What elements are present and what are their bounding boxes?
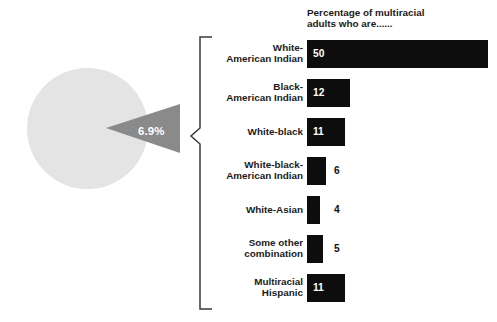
bar-category-label: White-black: [217, 126, 303, 137]
bar-category-label: White-Asian: [217, 204, 303, 215]
bar-category-label: Black- American Indian: [217, 81, 303, 104]
chart-title-line-1: Percentage of multiracial: [307, 7, 424, 18]
bar-value-label: 5: [334, 235, 340, 263]
bar-rect: [307, 40, 488, 68]
bar-row: Some other combination 5: [214, 234, 497, 273]
bar-category-label-line: Hispanic: [262, 287, 303, 298]
bar-rows: White- American Indian 50 Black- America…: [214, 39, 497, 312]
bar-category-label-line: American Indian: [226, 170, 303, 181]
bar-category-label: White- American Indian: [217, 42, 303, 65]
bar-row: White-black 11: [214, 117, 497, 156]
bar-rect: [307, 157, 326, 185]
bar-value-label: 11: [313, 118, 324, 146]
bar-row: White-black- American Indian 6: [214, 156, 497, 195]
bar-category-label: Some other combination: [217, 237, 303, 260]
bar-rect: [307, 235, 323, 263]
bar-row: White- American Indian 50: [214, 39, 497, 78]
pie-chart: 6.9%: [0, 0, 200, 260]
bar-rect: [307, 196, 320, 224]
connector-bracket: [190, 36, 214, 310]
bar-category-label: White-black- American Indian: [217, 159, 303, 182]
bar-category-label-line: Some other: [249, 237, 303, 248]
bar-category-label-line: American Indian: [226, 92, 303, 103]
bar-row: Multiracial Hispanic 11: [214, 273, 497, 312]
bar-chart-panel: Percentage of multiracial adults who are…: [214, 0, 497, 322]
bar-category-label-line: White-black-: [244, 159, 303, 170]
bar-category-label-line: combination: [244, 248, 303, 259]
pie-wedge-label: 6.9%: [138, 125, 165, 137]
figure-caption: [4, 313, 194, 322]
bar-value-label: 12: [313, 79, 324, 107]
figure-container: 6.9% Percentage of multiracial adults wh…: [0, 0, 497, 322]
bar-value-label: 4: [334, 196, 340, 224]
bar-category-label-line: American Indian: [226, 53, 303, 64]
bar-category-label-line: Multiracial: [254, 276, 303, 287]
bar-value-label: 50: [313, 40, 324, 68]
bar-value-label: 11: [313, 274, 324, 302]
bar-value-label: 6: [334, 157, 340, 185]
bar-category-label-line: White-: [273, 42, 303, 53]
bar-category-label-line: White-Asian: [246, 204, 303, 215]
bar-category-label: Multiracial Hispanic: [217, 276, 303, 299]
bar-category-label-line: White-black: [248, 126, 303, 137]
bar-category-label-line: Black-: [273, 81, 303, 92]
bar-row: Black- American Indian 12: [214, 78, 497, 117]
chart-title: Percentage of multiracial adults who are…: [307, 7, 497, 30]
chart-title-line-2: adults who are......: [307, 18, 393, 29]
bar-row: White-Asian 4: [214, 195, 497, 234]
